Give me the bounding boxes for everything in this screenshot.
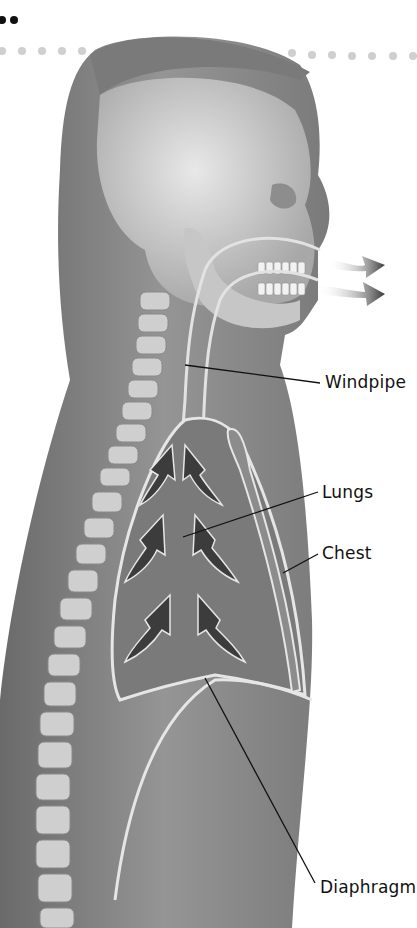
air-arrow-icon bbox=[318, 282, 385, 306]
respiratory-diagram: Windpipe Lungs Chest Diaphragm bbox=[0, 0, 417, 928]
air-arrow-icon bbox=[328, 256, 385, 278]
label-chest: Chest bbox=[322, 543, 372, 563]
dot-row-black bbox=[0, 16, 18, 24]
anatomy-illustration bbox=[0, 0, 417, 928]
label-diaphragm: Diaphragm bbox=[320, 877, 416, 897]
exhale-arrows bbox=[318, 256, 385, 306]
label-lungs: Lungs bbox=[322, 482, 373, 502]
label-windpipe: Windpipe bbox=[325, 372, 406, 392]
